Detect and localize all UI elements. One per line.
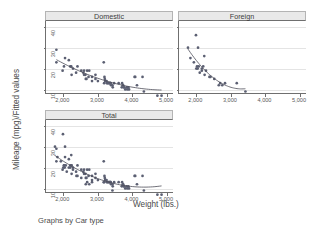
- data-point: [72, 168, 75, 171]
- data-point: [64, 156, 67, 159]
- data-point: [197, 46, 200, 49]
- stata-by-graph: Mileage (mpg)/Fitted values Domestic For…: [0, 0, 318, 233]
- data-point: [97, 80, 100, 83]
- data-point: [61, 69, 64, 72]
- data-point: [88, 69, 91, 72]
- gridline: [46, 126, 173, 127]
- data-point: [189, 57, 192, 60]
- data-point: [70, 172, 73, 175]
- data-point: [64, 164, 67, 167]
- x-tick-label: 4,000: [252, 97, 276, 103]
- data-point: [80, 177, 83, 180]
- data-point: [94, 73, 97, 76]
- data-point: [195, 34, 198, 37]
- data-point: [136, 183, 139, 186]
- panel-total: Total: [45, 110, 173, 193]
- plot-area-foreign: [178, 21, 306, 94]
- y-tick-label: 20: [50, 168, 56, 180]
- x-tick-label: 5,000: [154, 97, 178, 103]
- panel-domestic: Domestic: [45, 11, 173, 94]
- y-tick: [44, 27, 47, 28]
- data-point: [88, 183, 91, 186]
- fitted-line: [55, 156, 162, 188]
- data-point: [67, 158, 70, 161]
- data-point: [55, 61, 58, 64]
- data-point: [55, 160, 58, 163]
- scatter-layer: [46, 130, 174, 203]
- data-point: [102, 61, 105, 64]
- data-point: [141, 175, 144, 178]
- data-point: [65, 170, 68, 173]
- x-tick-label: 5,000: [154, 196, 178, 202]
- data-point: [102, 160, 105, 163]
- gridline: [179, 27, 306, 28]
- x-tick-label: 2,000: [50, 97, 74, 103]
- data-point: [203, 55, 206, 58]
- data-point: [198, 71, 201, 74]
- data-point: [111, 185, 114, 188]
- data-point: [117, 181, 120, 184]
- x-tick-label: 5,000: [287, 97, 311, 103]
- data-point: [134, 76, 137, 79]
- data-point: [85, 177, 88, 180]
- data-point: [200, 69, 203, 72]
- y-tick: [44, 126, 47, 127]
- y-tick-label: 40: [50, 27, 56, 39]
- data-point: [91, 181, 94, 184]
- data-point: [75, 170, 78, 173]
- panel-title-total: Total: [45, 110, 173, 120]
- data-point: [91, 80, 94, 83]
- x-tick-label: 3,000: [85, 196, 109, 202]
- x-tick-label: 3,000: [218, 97, 242, 103]
- data-point: [128, 88, 131, 91]
- data-point: [143, 90, 146, 93]
- x-tick-label: 2,000: [50, 196, 74, 202]
- data-point: [111, 189, 114, 192]
- panel-title-domestic: Domestic: [45, 11, 173, 21]
- scatter-layer: [46, 31, 174, 104]
- y-axis-title: Mileage (mpg)/Fitted values: [12, 69, 21, 170]
- y-tick-label: 40: [50, 126, 56, 138]
- data-point: [75, 71, 78, 74]
- data-point: [94, 172, 97, 175]
- plot-area-total: [45, 120, 173, 193]
- y-tick-label: 30: [50, 48, 56, 60]
- data-point: [83, 69, 86, 72]
- data-point: [244, 90, 247, 93]
- data-point: [193, 61, 196, 64]
- data-point: [85, 78, 88, 81]
- data-point: [86, 181, 89, 184]
- data-point: [197, 65, 200, 68]
- x-tick-label: 2,000: [183, 97, 207, 103]
- data-point: [88, 168, 91, 171]
- data-point: [224, 82, 227, 85]
- data-point: [64, 145, 67, 148]
- x-tick-label: 4,000: [119, 97, 143, 103]
- data-point: [76, 164, 79, 167]
- data-point: [76, 65, 79, 68]
- data-point: [67, 59, 70, 62]
- y-tick-label: 20: [50, 69, 56, 81]
- plot-area-domestic: [45, 21, 173, 94]
- panel-title-foreign: Foreign: [178, 11, 306, 21]
- by-variable-footnote: Graphs by Car type: [38, 216, 104, 225]
- panel-foreign: Foreign: [178, 11, 306, 94]
- data-point: [70, 73, 73, 76]
- data-point: [141, 76, 144, 79]
- y-tick: [177, 27, 180, 28]
- x-tick-label: 4,000: [119, 196, 143, 202]
- data-point: [63, 65, 66, 68]
- data-point: [187, 46, 190, 49]
- gridline: [46, 27, 173, 28]
- data-point: [111, 86, 114, 89]
- data-point: [143, 189, 146, 192]
- data-point: [70, 154, 73, 157]
- data-point: [203, 73, 206, 76]
- data-point: [136, 84, 139, 87]
- x-tick-label: 3,000: [85, 97, 109, 103]
- data-point: [235, 82, 238, 85]
- data-point: [83, 168, 86, 171]
- data-point: [134, 175, 137, 178]
- y-tick-label: 30: [50, 147, 56, 159]
- data-point: [62, 133, 65, 136]
